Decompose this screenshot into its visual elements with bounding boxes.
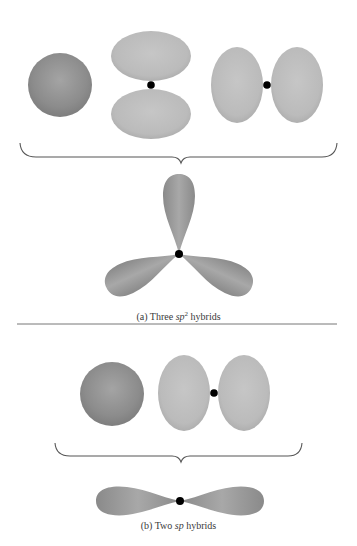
sp2-lobe-top xyxy=(163,174,195,254)
nucleus-dot xyxy=(175,250,183,258)
p-lobe-right xyxy=(271,47,323,123)
p-orbital-horizontal xyxy=(211,47,323,123)
s-orbital-sphere xyxy=(80,362,144,426)
nucleus-dot xyxy=(147,81,155,89)
orbital-hybridization-diagram xyxy=(0,0,357,546)
combine-brace xyxy=(55,443,302,462)
p-lobe-bottom xyxy=(111,89,191,139)
sp-hybrid-orbitals xyxy=(96,487,264,516)
nucleus-dot xyxy=(263,81,271,89)
sp-lobe-left xyxy=(96,487,180,516)
caption-panel-b: (b) Two sp hybrids xyxy=(0,520,357,532)
nucleus-dot xyxy=(210,389,218,397)
caption-a-italic: sp xyxy=(176,311,185,322)
p-lobe-left xyxy=(158,355,210,431)
panel-b xyxy=(55,355,302,515)
sp2-lobe-lower-left xyxy=(100,239,186,302)
s-orbital-sphere xyxy=(28,53,92,117)
caption-b-prefix: (b) Two xyxy=(141,520,175,531)
nucleus-dot xyxy=(176,497,184,505)
sp-lobe-right xyxy=(180,487,264,516)
p-orbital-horizontal xyxy=(158,355,270,431)
p-lobe-right xyxy=(218,355,270,431)
panel-a xyxy=(20,31,337,302)
caption-a-prefix: (a) Three xyxy=(136,311,175,322)
caption-b-italic: sp xyxy=(175,520,184,531)
p-lobe-top xyxy=(111,31,191,81)
sp2-lobe-lower-right xyxy=(172,239,258,302)
sp2-hybrid-orbitals xyxy=(100,174,259,302)
caption-a-suffix: hybrids xyxy=(188,311,221,322)
p-orbital-vertical xyxy=(111,31,191,139)
caption-panel-a: (a) Three sp2 hybrids xyxy=(0,311,357,323)
combine-brace xyxy=(20,143,337,163)
caption-b-suffix: hybrids xyxy=(184,520,217,531)
p-lobe-left xyxy=(211,47,263,123)
